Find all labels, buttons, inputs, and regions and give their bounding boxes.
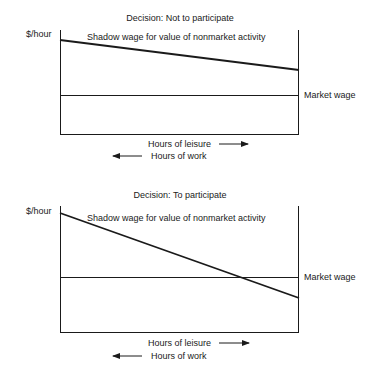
market-wage-label: Market wage <box>304 90 356 100</box>
leisure-label: Hours of leisure <box>148 338 211 348</box>
panel-participate: Decision: To participate $/hour Shadow w… <box>26 190 356 361</box>
work-label: Hours of work <box>151 151 207 161</box>
work-label: Hours of work <box>151 351 207 361</box>
y-axis-label: $/hour <box>26 206 52 216</box>
leisure-label: Hours of leisure <box>148 139 211 149</box>
panel-title: Decision: Not to participate <box>126 13 234 23</box>
shadow-wage-line <box>60 40 299 70</box>
labor-participation-diagram: Decision: Not to participate $/hour Shad… <box>0 0 382 375</box>
panel-not-participate: Decision: Not to participate $/hour Shad… <box>26 13 356 161</box>
market-wage-label: Market wage <box>304 272 356 282</box>
shadow-wage-label: Shadow wage for value of nonmarket activ… <box>87 32 266 42</box>
y-axis-label: $/hour <box>26 29 52 39</box>
shadow-wage-label: Shadow wage for value of nonmarket activ… <box>87 213 266 223</box>
shadow-wage-line <box>60 213 299 298</box>
panel-title: Decision: To participate <box>134 190 227 200</box>
